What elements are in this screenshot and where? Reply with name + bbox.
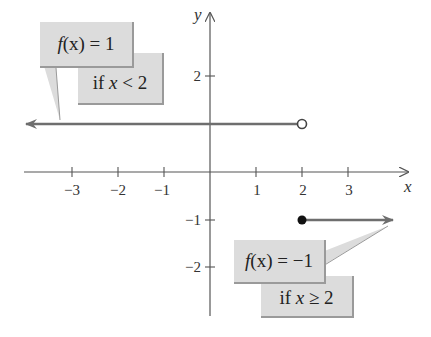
condition-rest: < 2 xyxy=(118,72,148,94)
y-tick-label: 2 xyxy=(194,68,202,84)
bottom-callout-function: f(x) = −1 xyxy=(234,240,326,284)
x-tick-label: −2 xyxy=(110,182,126,198)
condition-if: if xyxy=(93,72,109,94)
function-value: = 1 xyxy=(85,33,115,55)
closed-endpoint xyxy=(298,216,307,225)
bottom-callout-pointer-edge xyxy=(323,226,388,266)
function-arg: (x) xyxy=(250,250,272,272)
condition-var: x xyxy=(296,287,304,309)
x-tick-label: 3 xyxy=(345,182,353,198)
condition-var: x xyxy=(109,72,117,94)
open-endpoint xyxy=(298,120,307,129)
y-tick-label: −1 xyxy=(185,212,201,228)
x-axis-label: x xyxy=(403,177,412,196)
function-arg: (x) xyxy=(63,33,85,55)
x-tick-label: −3 xyxy=(64,182,80,198)
x-tick-label: 1 xyxy=(253,182,261,198)
function-value: = −1 xyxy=(273,250,313,272)
x-tick-label: 2 xyxy=(299,182,307,198)
y-axis-label: y xyxy=(192,5,202,24)
condition-rest: ≥ 2 xyxy=(304,287,333,309)
condition-if: if xyxy=(279,287,295,309)
top-callout-function: f(x) = 1 xyxy=(40,22,134,68)
y-tick-label: −2 xyxy=(185,259,201,275)
x-tick-label: −1 xyxy=(154,182,170,198)
